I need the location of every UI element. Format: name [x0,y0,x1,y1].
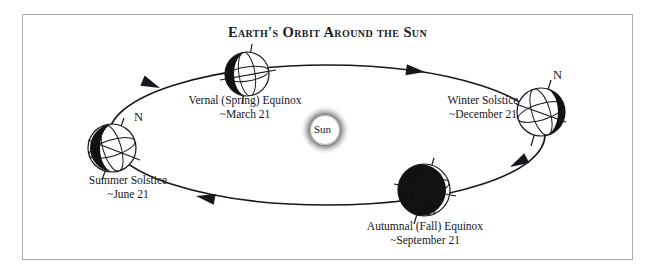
label-autumnal-equinox-date: ~September 21 [320,234,530,248]
label-summer-solstice-date: ~June 21 [48,188,208,202]
sun-label: Sun [314,123,331,135]
north-pole-label-winter: N [553,68,562,83]
label-winter-solstice-name: Winter Solstice [408,94,558,108]
label-autumnal-equinox-name: Autumnal (Fall) Equinox [320,220,530,234]
label-winter-solstice: Winter Solstice ~December 21 [408,94,558,121]
earth-autumnal-equinox [394,158,456,224]
label-summer-solstice: Summer Solstice ~June 21 [48,174,208,201]
label-winter-solstice-date: ~December 21 [408,108,558,122]
arrow-top-right-icon [405,64,425,77]
label-vernal-equinox: Vernal (Spring) Equinox ~March 21 [145,94,345,121]
north-pole-label-summer: N [134,110,143,125]
label-vernal-equinox-name: Vernal (Spring) Equinox [145,94,345,108]
label-vernal-equinox-date: ~March 21 [145,108,345,122]
earth-summer-solstice [87,118,140,180]
label-summer-solstice-name: Summer Solstice [48,174,208,188]
label-autumnal-equinox: Autumnal (Fall) Equinox ~September 21 [320,220,530,247]
